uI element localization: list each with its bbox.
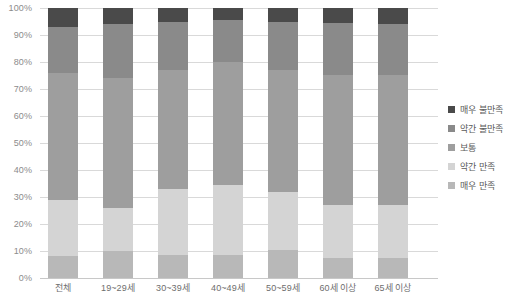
bar-stack xyxy=(378,8,408,278)
y-axis-tick-label: 10% xyxy=(14,246,32,256)
bar-segment[interactable] xyxy=(48,73,78,200)
bars-layer xyxy=(40,8,438,278)
bar-segment[interactable] xyxy=(103,24,133,78)
bar-stack xyxy=(213,8,243,278)
y-axis-tick-label: 20% xyxy=(14,219,32,229)
y-axis-tick-label: 100% xyxy=(9,3,32,13)
y-axis-tick-label: 40% xyxy=(14,165,32,175)
bar-segment[interactable] xyxy=(158,70,188,189)
bar-segment[interactable] xyxy=(323,205,353,258)
bar-segment[interactable] xyxy=(48,8,78,27)
y-axis: 0%10%20%30%40%50%60%70%80%90%100% xyxy=(0,8,36,278)
y-axis-tick-label: 70% xyxy=(14,84,32,94)
y-axis-tick-label: 90% xyxy=(14,30,32,40)
x-axis-tick-label: 19~29세 xyxy=(101,281,135,294)
legend-swatch-icon xyxy=(448,182,455,189)
legend-swatch-icon xyxy=(448,125,455,132)
bar-segment[interactable] xyxy=(268,192,298,250)
bar-segment[interactable] xyxy=(378,24,408,75)
legend-item-label: 약간 만족 xyxy=(460,160,495,173)
legend-item-label: 약간 불만족 xyxy=(460,122,503,135)
x-axis-tick-label: 40~49세 xyxy=(211,281,245,294)
bar-group[interactable] xyxy=(103,8,133,278)
legend-item-label: 매우 만족 xyxy=(460,179,495,192)
bar-segment[interactable] xyxy=(268,8,298,22)
bar-group[interactable] xyxy=(158,8,188,278)
bar-segment[interactable] xyxy=(323,8,353,23)
bar-segment[interactable] xyxy=(103,208,133,251)
bar-stack xyxy=(48,8,78,278)
bar-segment[interactable] xyxy=(378,205,408,258)
legend-item[interactable]: 매우 불만족 xyxy=(448,100,521,119)
y-axis-tick-label: 60% xyxy=(14,111,32,121)
legend-item-label: 매우 불만족 xyxy=(460,103,503,116)
bar-segment[interactable] xyxy=(213,62,243,185)
legend-swatch-icon xyxy=(448,106,455,113)
bar-group[interactable] xyxy=(213,8,243,278)
legend-item[interactable]: 약간 불만족 xyxy=(448,119,521,138)
legend-item-label: 보통 xyxy=(460,141,476,154)
bar-stack xyxy=(103,8,133,278)
bar-segment[interactable] xyxy=(268,250,298,278)
bar-stack xyxy=(158,8,188,278)
bar-segment[interactable] xyxy=(158,8,188,22)
bar-segment[interactable] xyxy=(103,251,133,278)
bar-segment[interactable] xyxy=(213,20,243,62)
bar-segment[interactable] xyxy=(158,189,188,255)
x-axis-tick-label: 30~39세 xyxy=(156,281,190,294)
bar-segment[interactable] xyxy=(323,258,353,278)
bar-segment[interactable] xyxy=(323,75,353,205)
x-axis: 전체19~29세30~39세40~49세50~59세60세 이상65세 이상 xyxy=(40,281,438,294)
bar-segment[interactable] xyxy=(48,200,78,257)
bar-group[interactable] xyxy=(323,8,353,278)
bar-segment[interactable] xyxy=(158,255,188,278)
x-axis-tick-label: 65세 이상 xyxy=(374,281,411,294)
bar-segment[interactable] xyxy=(378,75,408,205)
stacked-bar-chart: 0%10%20%30%40%50%60%70%80%90%100% 전체19~2… xyxy=(0,0,521,294)
bar-segment[interactable] xyxy=(378,258,408,278)
bar-segment[interactable] xyxy=(48,27,78,73)
bar-segment[interactable] xyxy=(213,255,243,278)
bar-group[interactable] xyxy=(48,8,78,278)
gridline-0 xyxy=(40,278,438,279)
bar-segment[interactable] xyxy=(213,8,243,20)
y-axis-tick-label: 0% xyxy=(19,273,32,283)
bar-segment[interactable] xyxy=(48,256,78,278)
legend-item[interactable]: 매우 만족 xyxy=(448,176,521,195)
legend-item[interactable]: 보통 xyxy=(448,138,521,157)
x-axis-tick-label: 60세 이상 xyxy=(319,281,356,294)
bar-segment[interactable] xyxy=(158,22,188,71)
legend: 매우 불만족약간 불만족보통약간 만족매우 만족 xyxy=(448,100,521,195)
legend-swatch-icon xyxy=(448,163,455,170)
bar-group[interactable] xyxy=(378,8,408,278)
bar-group[interactable] xyxy=(268,8,298,278)
bar-stack xyxy=(323,8,353,278)
y-axis-tick-label: 30% xyxy=(14,192,32,202)
legend-swatch-icon xyxy=(448,144,455,151)
y-axis-tick-label: 80% xyxy=(14,57,32,67)
bar-segment[interactable] xyxy=(103,78,133,208)
bar-segment[interactable] xyxy=(378,8,408,24)
bar-segment[interactable] xyxy=(103,8,133,24)
legend-item[interactable]: 약간 만족 xyxy=(448,157,521,176)
bar-segment[interactable] xyxy=(213,185,243,255)
bar-stack xyxy=(268,8,298,278)
y-axis-tick-label: 50% xyxy=(14,138,32,148)
bar-segment[interactable] xyxy=(268,22,298,71)
bar-segment[interactable] xyxy=(268,70,298,192)
bar-segment[interactable] xyxy=(323,23,353,76)
x-axis-tick-label: 50~59세 xyxy=(266,281,300,294)
x-axis-tick-label: 전체 xyxy=(55,281,71,294)
